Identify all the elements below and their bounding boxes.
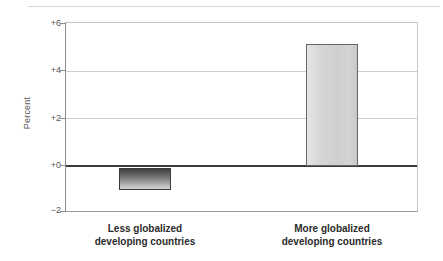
top-divider-rule <box>28 6 440 7</box>
y-tick-label-4: +4 <box>31 65 61 75</box>
category-label-more-globalized: More globalized developing countries <box>247 222 417 248</box>
y-tick-label-2: +2 <box>31 113 61 123</box>
bar-more-globalized[interactable] <box>306 44 358 165</box>
category-label-line-1: Less globalized <box>60 222 230 235</box>
bar-chart-figure: Percent +6 +4 +2 +0 −2 Less globalized d… <box>0 0 443 261</box>
plot-area <box>65 22 418 212</box>
category-label-less-globalized: Less globalized developing countries <box>60 222 230 248</box>
gridline-2 <box>66 118 417 119</box>
category-label-line-2: developing countries <box>247 235 417 248</box>
gridline-4 <box>66 71 417 72</box>
category-label-line-1: More globalized <box>247 222 417 235</box>
y-tick-label-6: +6 <box>31 18 61 28</box>
bar-less-globalized[interactable] <box>119 168 171 191</box>
y-tick-label-0: +0 <box>31 160 61 170</box>
category-label-line-2: developing countries <box>60 235 230 248</box>
y-tick-label-minus-2: −2 <box>31 205 61 215</box>
zero-baseline <box>66 165 417 167</box>
